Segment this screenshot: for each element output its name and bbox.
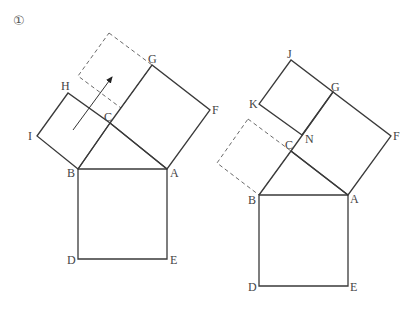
left-square-bchi bbox=[37, 93, 110, 169]
label-e: E bbox=[170, 253, 177, 267]
label-g: G bbox=[148, 52, 157, 66]
left-square-abde bbox=[78, 169, 167, 259]
label-n: N bbox=[305, 132, 314, 146]
left-square-acgf bbox=[110, 65, 210, 169]
left-side-ca bbox=[110, 123, 167, 169]
label-c: C bbox=[285, 138, 293, 152]
label-j: J bbox=[287, 47, 292, 61]
label-g: G bbox=[331, 80, 340, 94]
label-f: F bbox=[212, 103, 219, 117]
pythagorean-diagram: ① G H I C F B A D E J K G N C F B A D E bbox=[0, 0, 420, 311]
right-side-ca bbox=[291, 151, 348, 195]
label-k: K bbox=[249, 97, 258, 111]
label-h: H bbox=[61, 79, 70, 93]
label-f: F bbox=[393, 129, 400, 143]
label-b: B bbox=[248, 193, 256, 207]
figure-number: ① bbox=[13, 13, 25, 28]
label-a: A bbox=[170, 166, 179, 180]
label-a: A bbox=[350, 192, 359, 206]
right-square-abde bbox=[259, 195, 348, 286]
label-i: I bbox=[28, 129, 32, 143]
label-d: D bbox=[248, 280, 257, 294]
right-dashed-square bbox=[217, 119, 291, 195]
right-side-bc bbox=[259, 151, 291, 195]
left-dashed-square bbox=[78, 33, 152, 108]
right-figure: J K G N C F B A D E bbox=[217, 47, 400, 294]
left-side-bc bbox=[78, 123, 110, 169]
right-square-kngj bbox=[259, 60, 333, 135]
left-figure: G H I C F B A D E bbox=[28, 33, 219, 267]
label-c: C bbox=[104, 110, 112, 124]
label-e: E bbox=[350, 280, 357, 294]
label-b: B bbox=[67, 166, 75, 180]
label-d: D bbox=[67, 253, 76, 267]
